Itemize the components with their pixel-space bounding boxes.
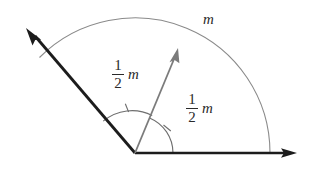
label-half-m-right: 1 2 m [186, 91, 213, 126]
upper-left-ray-arrowhead [26, 28, 41, 46]
fraction-denominator: 2 [112, 76, 124, 91]
upper-left-ray [35, 36, 135, 153]
fraction-half-left: 1 2 m [112, 58, 139, 92]
fraction-glyph: 1 2 [112, 58, 124, 92]
tick-mark-right [164, 125, 171, 131]
variable-m: m [128, 67, 139, 82]
label-half-m-left: 1 2 m [112, 57, 139, 92]
bisector-ray-arrowhead [170, 48, 180, 63]
angle-bisector-figure: 1 2 m 1 2 m m [0, 0, 311, 187]
bisector-ray [135, 56, 176, 154]
fraction-denominator: 2 [186, 110, 198, 125]
outer-arc [40, 18, 271, 153]
inner-arc-right [150, 118, 174, 153]
figure-canvas [0, 0, 311, 187]
fraction-half-right: 1 2 m [186, 92, 213, 126]
label-m-outer-arc: m [203, 12, 214, 27]
fraction-numerator: 1 [112, 58, 124, 73]
variable-m: m [202, 101, 213, 116]
fraction-glyph: 1 2 [186, 92, 198, 126]
fraction-numerator: 1 [186, 92, 198, 107]
inner-arc-left [103, 111, 152, 122]
